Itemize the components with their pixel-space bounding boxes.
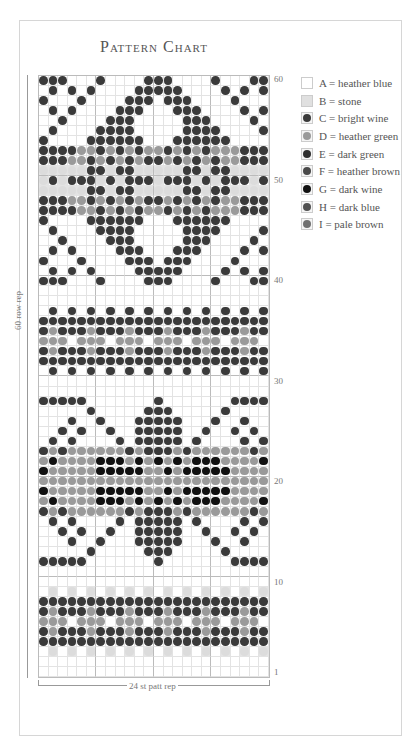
grid-cell <box>96 276 106 286</box>
grid-cell <box>192 326 202 336</box>
grid-cell <box>39 657 49 667</box>
row-number-label: 20 <box>274 476 283 486</box>
grid-cell <box>183 236 193 246</box>
stitch-dot <box>125 186 134 195</box>
stitch-dot <box>202 627 211 636</box>
grid-cell <box>183 617 193 627</box>
grid-cell <box>231 236 241 246</box>
grid-cell <box>231 547 241 557</box>
grid-cell <box>259 467 269 477</box>
grid-cell <box>96 647 106 657</box>
grid-cell <box>68 467 78 477</box>
stitch-dot <box>221 547 230 556</box>
stitch-dot <box>96 487 105 496</box>
grid-cell <box>125 216 135 226</box>
grid-cell <box>221 206 231 216</box>
stitch-dot <box>87 477 96 486</box>
grid-cell <box>49 397 59 407</box>
stitch-dot <box>135 447 144 456</box>
grid-cell <box>39 517 49 527</box>
stitch-dot <box>144 537 153 546</box>
grid-cell <box>259 667 269 677</box>
stitch-dot <box>144 647 153 656</box>
stitch-dot <box>87 547 96 556</box>
grid-cell <box>58 306 68 316</box>
grid-cell <box>240 166 250 176</box>
stitch-dot <box>231 96 240 105</box>
grid-cell <box>211 557 221 567</box>
stitch-dot <box>87 327 96 336</box>
grid-cell <box>144 76 154 86</box>
grid-cell <box>39 447 49 457</box>
stitch-dot <box>202 126 211 135</box>
stitch-dot <box>125 257 134 266</box>
stitch-dot <box>87 196 96 205</box>
stitch-dot <box>96 277 105 286</box>
grid-cell <box>96 497 106 507</box>
grid-cell <box>221 186 231 196</box>
grid-cell <box>202 487 212 497</box>
grid-cell <box>164 457 174 467</box>
grid-cell <box>173 356 183 366</box>
grid-cell <box>106 76 116 86</box>
grid-cell <box>125 437 135 447</box>
stitch-dot <box>192 357 201 366</box>
grid-cell <box>87 306 97 316</box>
grid-cell <box>231 567 241 577</box>
stitch-dot <box>39 627 48 636</box>
grid-cell <box>106 457 116 467</box>
grid-cell <box>77 326 87 336</box>
grid-cell <box>221 156 231 166</box>
stitch-dot <box>87 146 96 155</box>
grid-cell <box>173 587 183 597</box>
grid-cell <box>87 457 97 467</box>
grid-cell <box>154 567 164 577</box>
grid-cell <box>68 76 78 86</box>
grid-cell <box>77 156 87 166</box>
grid-cell <box>77 246 87 256</box>
stitch-dot <box>49 267 58 276</box>
grid-cell <box>116 537 126 547</box>
grid-cell <box>77 306 87 316</box>
grid-cell <box>240 246 250 256</box>
grid-cell <box>211 617 221 627</box>
stitch-dot <box>164 517 173 526</box>
color-legend: A = heather blueB = stoneC = bright wine… <box>301 74 400 233</box>
stitch-dot <box>173 527 182 536</box>
grid-cell <box>250 647 260 657</box>
stitch-dot <box>106 307 115 316</box>
grid-cell <box>183 256 193 266</box>
grid-cell <box>202 447 212 457</box>
stitch-dot <box>68 467 77 476</box>
grid-cell <box>87 467 97 477</box>
legend-item: E = dark green <box>301 145 400 163</box>
grid-cell <box>202 256 212 266</box>
grid-cell <box>240 266 250 276</box>
stitch-dot <box>87 507 96 516</box>
grid-cell <box>106 246 116 256</box>
stitch-dot <box>231 527 240 536</box>
stitch-dot <box>164 617 173 626</box>
grid-cell <box>183 587 193 597</box>
stitch-dot <box>211 607 220 616</box>
grid-cell <box>96 557 106 567</box>
grid-cell <box>77 256 87 266</box>
grid-cell <box>183 146 193 156</box>
stitch-dot <box>106 597 115 606</box>
grid-cell <box>173 447 183 457</box>
stitch-dot <box>77 357 86 366</box>
grid-cell <box>87 547 97 557</box>
grid-cell <box>240 477 250 487</box>
grid-cell <box>250 497 260 507</box>
grid-cell <box>231 667 241 677</box>
stitch-dot <box>68 607 77 616</box>
grid-cell <box>250 517 260 527</box>
stitch-dot <box>259 397 268 406</box>
grid-cell <box>77 186 87 196</box>
grid-cell <box>211 336 221 346</box>
grid-cell <box>211 497 221 507</box>
grid-cell <box>125 186 135 196</box>
grid-cell <box>87 116 97 126</box>
grid-cell <box>154 617 164 627</box>
stitch-dot <box>202 607 211 616</box>
